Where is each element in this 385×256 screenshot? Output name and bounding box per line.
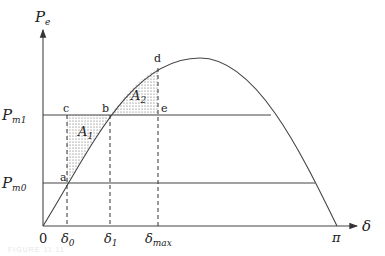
point-d-label: d [154,52,161,65]
point-e-label: e [161,102,168,115]
point-c-label: c [63,102,69,115]
equal-area-diagram: Pe δ Pm1 Pm0 0 δ0 δ1 δmax π a b c d e A1… [0,0,385,256]
tick-delta1: δ1 [104,231,118,248]
x-axis-label: δ [362,217,371,235]
point-a-label: a [60,171,67,184]
tick-pi: π [331,230,341,245]
tick-origin: 0 [39,231,47,246]
point-b-label: b [102,102,109,115]
tick-deltamax: δmax [145,231,172,248]
y-axis-label: Pe [34,8,50,27]
pm1-label: Pm1 [1,106,26,125]
figure-caption: FIGURE 11.11 [8,246,65,253]
pm0-label: Pm0 [1,174,27,193]
